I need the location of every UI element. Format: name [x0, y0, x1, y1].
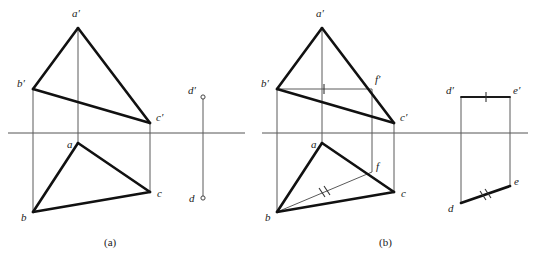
panel-b-label-d: d: [448, 202, 454, 214]
panel-b-label-c-prime: c′: [400, 111, 408, 123]
panel-b-edge-a-prime-c-prime: [322, 28, 394, 123]
panel-b-label-b: b: [265, 211, 271, 223]
panel-a-label-d: d: [189, 192, 195, 204]
panel-a-label-a: a: [67, 138, 73, 150]
panel-b-label-e: e: [514, 175, 519, 187]
panel-a-edge-b-prime-c-prime: [33, 89, 150, 123]
projection-drawing: a′ b′ c′ a b c d′ d: [0, 0, 533, 265]
panel-a-point-d-prime-dot: [201, 95, 205, 99]
panel-a-edge-a-prime-b-prime: [33, 28, 78, 89]
panel-a-label-d-prime: d′: [188, 84, 197, 96]
panel-a-label-c: c: [157, 187, 162, 199]
panel-a-edge-a-c: [78, 143, 150, 192]
panel-a-label-b-prime: b′: [17, 77, 26, 89]
panel-a-label-a-prime: a′: [72, 7, 81, 19]
panel-b-edge-a-c: [322, 143, 394, 192]
panel-b-edge-d-e: [461, 186, 510, 203]
panel-b-group: a′ b′ c′ f′ a b c f d′ e′ d e: [261, 7, 528, 223]
panel-a-point-d-dot: [201, 196, 205, 200]
caption-a: (a): [104, 236, 117, 249]
panel-a-edge-a-b: [33, 143, 78, 212]
panel-b-edge-b-c: [277, 192, 394, 212]
caption-b: (b): [379, 236, 392, 249]
panel-b-label-c: c: [401, 187, 406, 199]
panel-b-label-d-prime: d′: [446, 84, 455, 96]
panel-b-label-b-prime: b′: [261, 77, 270, 89]
panel-a-edge-a-prime-c-prime: [78, 28, 150, 123]
panel-a-label-c-prime: c′: [156, 111, 164, 123]
figure-root: a′ b′ c′ a b c d′ d: [0, 0, 533, 265]
panel-a-group: a′ b′ c′ a b c d′ d: [8, 7, 245, 223]
panel-a-label-b: b: [21, 211, 27, 223]
panel-b-label-f: f: [376, 160, 381, 172]
panel-b-label-a: a: [311, 138, 317, 150]
panel-b-edge-a-prime-b-prime: [277, 28, 322, 89]
panel-a-edge-b-c: [33, 192, 150, 212]
panel-b-label-f-prime: f′: [375, 73, 381, 85]
panel-b-label-e-prime: e′: [513, 84, 521, 96]
panel-b-edge-b-prime-c-prime: [277, 89, 394, 123]
panel-b-edge-a-b: [277, 143, 322, 212]
panel-b-label-a-prime: a′: [316, 7, 325, 19]
